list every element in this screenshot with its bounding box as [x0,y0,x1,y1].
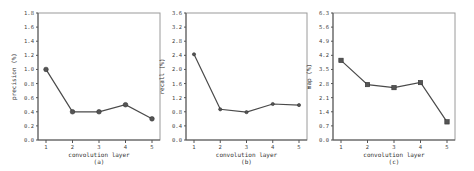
subplot-label: (a) [94,158,105,165]
y-tick-label: 0.4 [172,123,183,129]
x-tick-label: 2 [366,144,369,150]
y-tick-label: 4.2 [319,52,329,58]
y-tick-label: 4.9 [319,38,329,44]
chart-panel-2: 0.00.71.42.12.83.54.24.95.66.312345convo… [305,10,455,165]
y-tick-label: 2.1 [319,95,329,101]
data-point [445,120,449,124]
y-tick-label: 3.2 [172,24,182,30]
x-tick-label: 2 [219,144,222,150]
y-tick-label: 3.5 [319,66,329,72]
data-point [297,103,300,106]
data-point [365,82,369,86]
y-axis-label: map (%) [305,64,313,89]
y-tick-label: 0.4 [24,109,35,115]
y-tick-label: 1.2 [24,52,34,58]
x-tick-label: 5 [150,144,153,150]
series-line [341,60,447,122]
y-tick-label: 1.6 [172,81,182,87]
series-line [194,54,299,112]
y-tick-label: 0.2 [24,123,34,129]
subplot-label: (c) [389,158,400,165]
chart-panel-0: 0.00.20.40.60.81.01.21.41.61.812345convo… [10,10,160,165]
y-tick-label: 1.4 [319,109,330,115]
x-tick-label: 5 [445,144,448,150]
subplot-label: (b) [241,158,252,165]
plot-frame [333,13,455,140]
y-tick-label: 0.0 [172,137,182,143]
data-point [219,108,222,111]
data-point [245,111,248,114]
x-tick-label: 3 [245,144,248,150]
x-tick-label: 2 [71,144,74,150]
x-tick-label: 4 [124,144,128,150]
data-point [271,102,274,105]
y-tick-label: 5.6 [319,24,329,30]
data-point [97,109,102,114]
x-tick-label: 1 [339,144,342,150]
x-tick-label: 5 [297,144,300,150]
y-tick-label: 3.6 [172,10,182,16]
data-point [70,109,75,114]
data-point [44,67,49,72]
data-point [150,117,155,122]
y-tick-label: 1.0 [24,66,34,72]
y-axis-label: recall (%) [158,58,165,94]
y-tick-label: 0.7 [319,123,329,129]
y-tick-label: 1.6 [24,24,34,30]
x-tick-label: 3 [97,144,100,150]
y-tick-label: 2.8 [319,81,329,87]
y-tick-label: 1.8 [24,10,34,16]
y-tick-label: 1.2 [172,95,182,101]
y-tick-label: 0.8 [172,109,182,115]
data-point [192,53,195,56]
x-tick-label: 4 [271,144,275,150]
y-tick-label: 2.4 [172,52,183,58]
chart-panel-1: 0.00.40.81.21.62.02.42.83.23.612345convo… [158,10,307,165]
data-point [339,58,343,62]
y-tick-label: 0.8 [24,81,34,87]
x-tick-label: 3 [392,144,395,150]
x-tick-label: 1 [192,144,195,150]
charts-figure: 0.00.20.40.60.81.01.21.41.61.812345convo… [0,0,474,171]
y-tick-label: 1.4 [24,38,35,44]
y-axis-label: precision (%) [10,53,18,100]
y-tick-label: 0.0 [319,137,329,143]
plot-frame [38,13,160,140]
data-point [418,80,422,84]
y-tick-label: 0.0 [24,137,34,143]
x-tick-label: 1 [44,144,47,150]
y-tick-label: 2.0 [172,66,182,72]
y-tick-label: 6.3 [319,10,329,16]
x-tick-label: 4 [419,144,423,150]
y-tick-label: 2.8 [172,38,182,44]
data-point [392,85,396,89]
y-tick-label: 0.6 [24,95,34,101]
data-point [123,102,128,107]
